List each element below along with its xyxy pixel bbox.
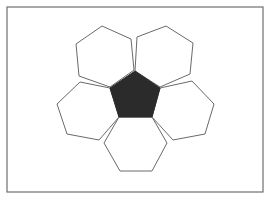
diagram-canvas xyxy=(0,0,268,197)
